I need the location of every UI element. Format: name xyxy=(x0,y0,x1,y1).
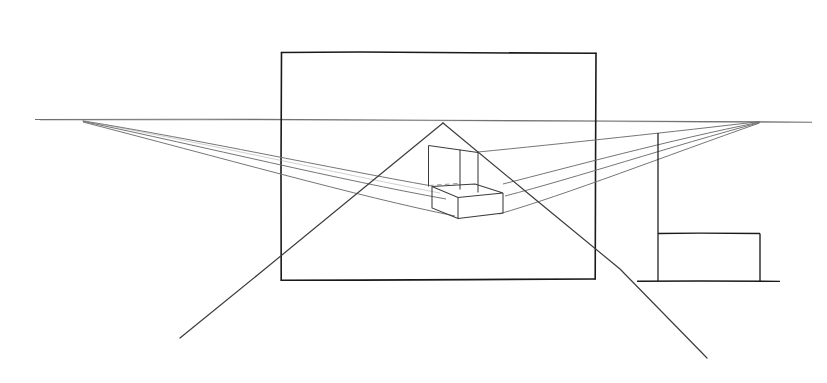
paper-background xyxy=(0,0,827,383)
frame-right-edge xyxy=(595,53,596,279)
frame-left-edge xyxy=(281,53,282,281)
perspective-sketch-svg xyxy=(0,0,827,383)
drawing-canvas xyxy=(0,0,827,383)
